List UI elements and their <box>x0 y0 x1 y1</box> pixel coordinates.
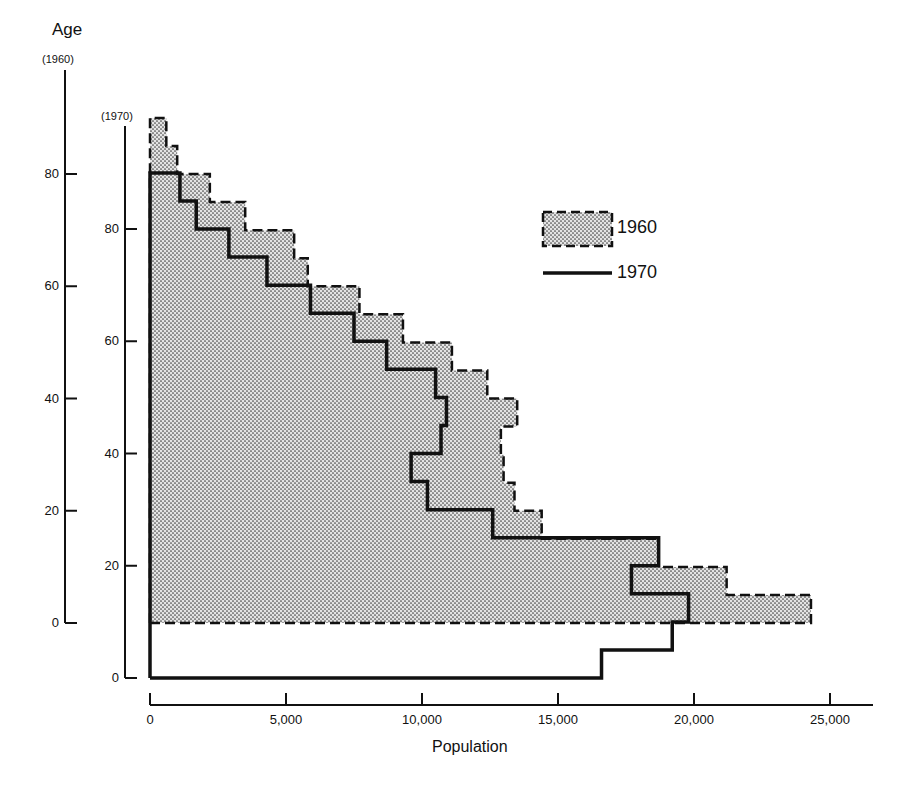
y-tick-label-1960: 20 <box>45 503 59 518</box>
axis-label-1970: (1970) <box>101 110 133 122</box>
y-axis-1960 <box>65 70 77 623</box>
y-axis-title: Age <box>52 20 82 40</box>
y-tick-label-1970: 80 <box>105 221 119 236</box>
x-tick-label: 10,000 <box>402 712 442 727</box>
x-axis <box>150 693 873 705</box>
x-tick-label: 15,000 <box>538 712 578 727</box>
x-tick-label: 5,000 <box>270 712 303 727</box>
legend-label-1970: 1970 <box>617 262 657 283</box>
x-tick-label: 0 <box>146 712 153 727</box>
y-tick-label-1970: 60 <box>105 333 119 348</box>
x-tick-label: 25,000 <box>810 712 850 727</box>
legend-swatch-1960 <box>543 212 612 246</box>
axis-label-1960: (1960) <box>42 53 74 65</box>
y-tick-label-1970: 40 <box>105 446 119 461</box>
legend <box>543 212 612 273</box>
y-tick-label-1960: 80 <box>45 166 59 181</box>
legend-label-1960: 1960 <box>617 217 657 238</box>
y-tick-label-1960: 40 <box>45 391 59 406</box>
population-chart <box>0 0 911 788</box>
y-tick-label-1960: 60 <box>45 278 59 293</box>
y-tick-label-1960: 0 <box>52 615 59 630</box>
y-axis-1970 <box>125 126 137 678</box>
y-tick-label-1970: 0 <box>112 670 119 685</box>
x-axis-title: Population <box>432 738 508 756</box>
y-tick-label-1970: 20 <box>105 558 119 573</box>
x-tick-label: 20,000 <box>674 712 714 727</box>
